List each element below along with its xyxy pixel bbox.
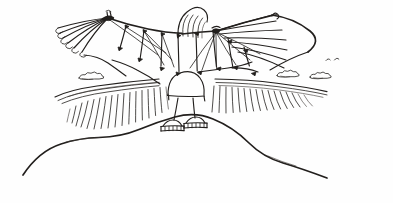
paper-background — [0, 0, 393, 203]
drawing-canvas — [0, 0, 393, 203]
ink-sketch — [0, 0, 393, 203]
